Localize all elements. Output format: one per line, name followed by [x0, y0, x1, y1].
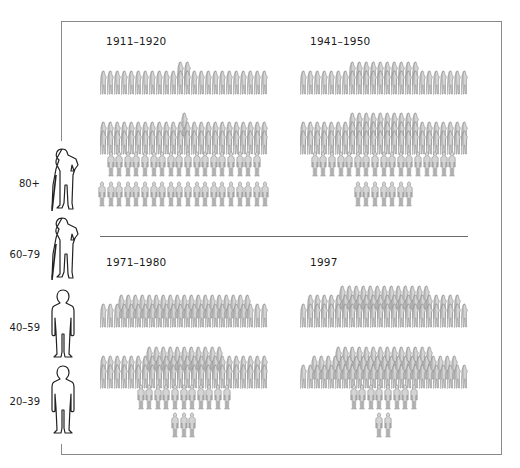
adult-figure-icon: [380, 151, 389, 177]
adult-figure-icon: [448, 151, 457, 177]
elderly-figure-icon: [384, 303, 391, 329]
elderly-figure-icon: [261, 303, 268, 329]
adult-figure-icon: [358, 384, 367, 410]
pictogram-layer: [98, 181, 270, 207]
elderly-figure-icon: [219, 70, 226, 96]
adult-figure-icon: [201, 181, 210, 207]
adult-figure-icon: [223, 384, 232, 410]
pictogram-layer: [300, 303, 468, 329]
elderly-figure-icon: [335, 364, 342, 390]
adult-figure-icon: [184, 181, 193, 207]
pictogram-layer: [375, 412, 392, 438]
frame-left-border-top: [61, 21, 62, 141]
elderly-figure-icon: [300, 364, 307, 390]
elderly-figure-icon: [170, 70, 177, 96]
elderly-figure-icon: [254, 303, 261, 329]
adult-figure-icon: [354, 181, 363, 207]
elderly-figure-icon: [191, 70, 198, 96]
adult-figure-icon: [132, 151, 141, 177]
elderly-figure-icon: [461, 70, 468, 96]
elderly-figure-icon: [177, 303, 184, 329]
elderly-figure-icon: [328, 303, 335, 329]
adult-figure-icon: [193, 151, 202, 177]
elderly-figure-icon: [149, 303, 156, 329]
elderly-figure-icon: [461, 364, 468, 390]
adult-figure-icon: [210, 181, 219, 207]
elderly-figure-icon: [100, 303, 107, 329]
elderly-figure-icon: [391, 70, 398, 96]
pictogram-layer: [171, 412, 197, 438]
adult-figure-icon: [405, 151, 414, 177]
adult-figure-icon: [375, 412, 384, 438]
adult-person-icon: [49, 364, 77, 440]
elderly-figure-icon: [447, 70, 454, 96]
elderly-figure-icon: [433, 70, 440, 96]
adult-figure-icon: [107, 151, 116, 177]
adult-figure-icon: [261, 181, 270, 207]
elderly-figure-icon: [191, 303, 198, 329]
adult-figure-icon: [405, 181, 414, 207]
elderly-figure-icon: [240, 364, 247, 390]
frame-bottom-border: [61, 454, 502, 455]
elderly-figure-icon: [377, 70, 384, 96]
elderly-figure-icon: [405, 70, 412, 96]
adult-figure-icon: [337, 151, 346, 177]
adult-figure-icon: [253, 151, 262, 177]
elderly-figure-icon: [226, 303, 233, 329]
elderly-figure-icon: [240, 303, 247, 329]
pictogram-layer: [107, 151, 262, 177]
elderly-figure-icon: [349, 70, 356, 96]
pictogram-layer: [100, 70, 268, 96]
elderly-figure-icon: [321, 70, 328, 96]
elderly-figure-icon: [363, 70, 370, 96]
adult-figure-icon: [414, 151, 423, 177]
panel-title-1941-1950: 1941–1950: [310, 35, 371, 47]
elderly-figure-icon: [454, 364, 461, 390]
legend-label-20-39: 20–39: [0, 396, 40, 407]
elderly-figure-icon: [342, 364, 349, 390]
elderly-figure-icon: [121, 303, 128, 329]
elderly-figure-icon: [135, 303, 142, 329]
elderly-figure-icon: [170, 303, 177, 329]
elderly-figure-icon: [419, 303, 426, 329]
elderly-figure-icon: [349, 303, 356, 329]
elderly-figure-icon: [307, 70, 314, 96]
elderly-figure-icon: [314, 364, 321, 390]
elderly-figure-icon: [226, 70, 233, 96]
adult-figure-icon: [380, 181, 389, 207]
elderly-figure-icon: [433, 303, 440, 329]
elderly-figure-icon: [314, 303, 321, 329]
elderly-figure-icon: [321, 364, 328, 390]
adult-figure-icon: [244, 181, 253, 207]
adult-figure-icon: [362, 151, 371, 177]
elderly-figure-icon: [261, 130, 268, 156]
elderly-figure-icon: [219, 303, 226, 329]
adult-figure-icon: [423, 151, 432, 177]
elderly-figure-icon: [121, 364, 128, 390]
elderly-figure-icon: [128, 364, 135, 390]
adult-figure-icon: [162, 384, 171, 410]
elderly-figure-icon: [440, 70, 447, 96]
elderly-figure-icon: [198, 303, 205, 329]
adult-figure-icon: [158, 181, 167, 207]
elderly-figure-icon: [461, 303, 468, 329]
adult-figure-icon: [124, 151, 133, 177]
elderly-figure-icon: [398, 303, 405, 329]
adult-figure-icon: [388, 151, 397, 177]
adult-figure-icon: [350, 384, 359, 410]
elderly-figure-icon: [454, 303, 461, 329]
adult-figure-icon: [180, 384, 189, 410]
elderly-figure-icon: [426, 303, 433, 329]
panel-title-1997: 1997: [310, 256, 338, 268]
adult-figure-icon: [384, 384, 393, 410]
elderly-figure-icon: [412, 70, 419, 96]
elderly-figure-icon: [114, 303, 121, 329]
adult-figure-icon: [141, 151, 150, 177]
adult-figure-icon: [115, 181, 124, 207]
elderly-figure-icon: [205, 303, 212, 329]
adult-figure-icon: [227, 181, 236, 207]
adult-figure-icon: [137, 384, 146, 410]
elderly-figure-icon: [121, 70, 128, 96]
elderly-figure-icon: [247, 364, 254, 390]
adult-figure-icon: [201, 151, 210, 177]
